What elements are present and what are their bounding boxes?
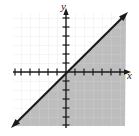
coordinate-plane-figure: y x [0,0,139,136]
x-axis-label: x [127,70,132,81]
graph-canvas [0,0,139,136]
y-axis-label: y [61,1,66,12]
